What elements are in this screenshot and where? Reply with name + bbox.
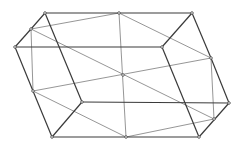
edge-C-G bbox=[192, 13, 211, 58]
vertex-K bbox=[213, 118, 216, 121]
vertex-D bbox=[30, 28, 33, 31]
vertex-M bbox=[125, 136, 128, 139]
vertex-A bbox=[44, 12, 47, 15]
vertex-G bbox=[210, 57, 213, 60]
edge-F-C bbox=[162, 13, 192, 47]
vertex-B bbox=[118, 12, 121, 15]
edge-K-G bbox=[211, 58, 214, 119]
vertex-L bbox=[51, 136, 54, 139]
vertex-H bbox=[32, 90, 35, 93]
polyhedron-diagram bbox=[0, 0, 243, 148]
edge-H-M bbox=[33, 91, 126, 137]
edge-D-B bbox=[31, 13, 119, 29]
edge-A-I bbox=[45, 13, 82, 102]
vertices bbox=[14, 12, 231, 139]
edge-L-H bbox=[33, 91, 52, 137]
edge-E-D bbox=[15, 29, 31, 47]
edge-I-J bbox=[82, 102, 229, 103]
edge-I-L bbox=[52, 102, 82, 137]
edge-D-H bbox=[31, 29, 33, 91]
vertex-N bbox=[198, 136, 201, 139]
vertex-O bbox=[122, 74, 125, 77]
vertex-E bbox=[14, 46, 17, 49]
edge-G-J bbox=[211, 58, 229, 103]
vertex-F bbox=[161, 46, 164, 49]
vertex-J bbox=[228, 102, 231, 105]
edge-H-E bbox=[15, 47, 33, 91]
vertex-C bbox=[191, 12, 194, 15]
edge-B-G bbox=[119, 13, 211, 58]
edge-F-N bbox=[162, 47, 199, 137]
vertex-I bbox=[81, 101, 84, 104]
